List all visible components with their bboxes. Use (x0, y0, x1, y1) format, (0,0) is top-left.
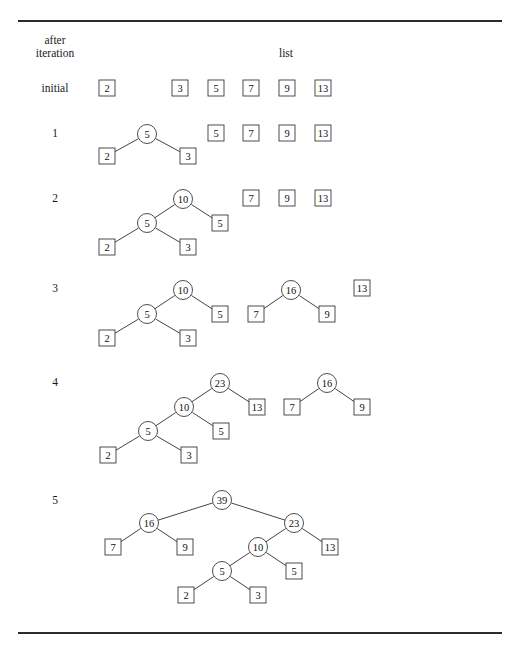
tree-edge (335, 389, 355, 403)
node-value-label: 39 (217, 495, 228, 506)
tree-edge (302, 529, 323, 543)
node-value-label: 5 (217, 218, 222, 229)
tree-edge (191, 295, 212, 309)
tree-edge (157, 436, 182, 451)
tree-edge (229, 553, 250, 567)
tree-edge (114, 319, 138, 333)
node-value-label: 5 (144, 129, 149, 140)
node-value-label: 23 (289, 518, 300, 529)
node-value-label: 13 (252, 402, 263, 413)
node-value-label: 7 (248, 193, 253, 204)
node-value-label: 5 (213, 83, 218, 94)
tree-edge (191, 204, 212, 218)
node-value-label: 9 (182, 542, 187, 553)
tree-edge (156, 139, 181, 152)
node-value-label: 9 (284, 193, 289, 204)
node-value-label: 3 (255, 590, 260, 601)
node-value-label: 3 (185, 151, 190, 162)
tree-edge (114, 139, 138, 152)
node-value-label: 3 (186, 450, 191, 461)
node-value-label: 9 (284, 128, 289, 139)
node-value-label: 10 (178, 285, 189, 296)
tree-edge (191, 389, 212, 403)
tree-row-1: 52357913 (99, 125, 331, 165)
tree-edge (120, 529, 141, 543)
tree-edge (157, 503, 212, 520)
figure-page: after iteration list initial12345 235791… (0, 0, 520, 650)
node-value-label: 5 (145, 426, 150, 437)
node-value-label: 3 (185, 333, 190, 344)
tree-edge (156, 228, 181, 243)
node-value-label: 16 (286, 285, 297, 296)
tree-edge (154, 205, 175, 219)
tree-row-initial: 2357913 (99, 80, 331, 96)
tree-edge (232, 503, 286, 520)
node-value-label: 7 (248, 128, 253, 139)
tree-edge (299, 296, 320, 310)
node-value-label: 7 (248, 83, 253, 94)
tree-edge (157, 529, 178, 543)
tree-row-4: 23101355231679 (100, 374, 370, 464)
node-value-label: 13 (357, 283, 368, 294)
tree-diagram: 2357913523579131055237913105523167913231… (0, 0, 520, 650)
node-value-label: 5 (219, 566, 224, 577)
node-value-label: 13 (318, 128, 329, 139)
node-value-label: 9 (359, 402, 364, 413)
tree-edge (114, 228, 138, 242)
tree-edge (192, 412, 213, 426)
node-value-label: 9 (284, 83, 289, 94)
tree-edge (265, 529, 286, 543)
node-value-label: 2 (104, 83, 109, 94)
tree-edge (266, 553, 287, 567)
tree-edge (228, 388, 249, 402)
tree-edge (230, 577, 251, 591)
node-value-label: 10 (178, 194, 189, 205)
tree-edge (299, 389, 319, 403)
node-value-label: 7 (110, 542, 115, 553)
node-value-label: 7 (253, 309, 258, 320)
node-value-label: 10 (179, 402, 190, 413)
node-value-label: 5 (291, 566, 296, 577)
node-value-label: 7 (289, 402, 294, 413)
tree-row-5: 3916237910135523 (105, 491, 338, 604)
node-value-label: 10 (253, 542, 264, 553)
tree-edge (263, 296, 283, 310)
tree-edge (193, 577, 214, 591)
node-value-label: 2 (104, 333, 109, 344)
node-value-label: 16 (144, 518, 155, 529)
node-value-label: 5 (144, 309, 149, 320)
node-value-label: 23 (215, 378, 226, 389)
tree-edge (156, 319, 181, 334)
node-value-label: 2 (183, 590, 188, 601)
tree-edge (155, 413, 176, 427)
node-value-label: 13 (318, 193, 329, 204)
node-value-label: 5 (144, 218, 149, 229)
node-value-label: 5 (217, 309, 222, 320)
node-value-label: 2 (104, 242, 109, 253)
node-value-label: 2 (104, 151, 109, 162)
tree-row-3: 105523167913 (99, 280, 370, 346)
node-value-label: 2 (105, 450, 110, 461)
node-value-label: 13 (318, 83, 329, 94)
node-value-label: 16 (322, 378, 333, 389)
node-value-label: 13 (325, 542, 336, 553)
node-value-label: 5 (213, 128, 218, 139)
tree-edge (115, 436, 139, 450)
tree-row-2: 1055237913 (99, 190, 331, 256)
node-value-label: 3 (185, 242, 190, 253)
node-value-label: 5 (218, 426, 223, 437)
tree-edge (154, 296, 175, 310)
node-value-label: 9 (324, 309, 329, 320)
node-value-label: 3 (177, 83, 182, 94)
